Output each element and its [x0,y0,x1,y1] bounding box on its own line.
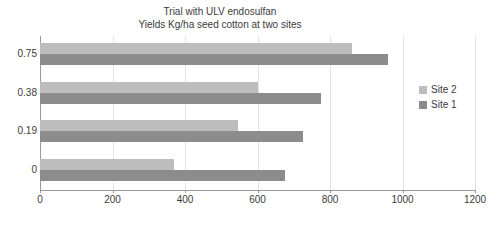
bar [40,159,174,170]
plot-area [40,36,475,190]
bar-group [40,75,475,114]
bar-group [40,152,475,191]
bar [40,82,258,93]
bar [40,54,388,65]
legend-item: Site 1 [419,98,457,111]
y-axis-tick-labels: 0.750.380.190 [0,36,37,190]
bar [40,43,352,54]
x-axis-tick-mark [330,190,331,193]
chart-title-block: Trial with ULV endosulfan Yields Kg/ha s… [0,5,440,31]
chart-title: Trial with ULV endosulfan [0,5,440,18]
x-axis-tick-mark [113,190,114,193]
legend-label: Site 2 [431,84,457,95]
x-axis-tick-label: 0 [20,194,60,205]
y-axis-tick-label: 0 [1,164,37,175]
x-axis-tick-label: 800 [310,194,350,205]
bar-group [40,113,475,152]
legend-swatch-icon [419,101,427,109]
bar [40,170,285,181]
chart-legend: Site 2Site 1 [419,83,457,113]
x-axis-tick-mark [475,190,476,193]
bar-group [40,36,475,75]
legend-swatch-icon [419,86,427,94]
x-axis-tick-mark [403,190,404,193]
x-axis-tick-mark [185,190,186,193]
chart-subtitle: Yields Kg/ha seed cotton at two sites [0,18,440,31]
legend-item: Site 2 [419,83,457,96]
bar-chart: Trial with ULV endosulfan Yields Kg/ha s… [0,0,503,225]
x-axis-tick-label: 1000 [383,194,423,205]
x-axis-tick-label: 1200 [455,194,495,205]
bar [40,131,303,142]
x-axis-tick-label: 400 [165,194,205,205]
gridline [475,36,476,190]
legend-label: Site 1 [431,99,457,110]
y-axis-tick-label: 0.75 [1,48,37,59]
bar [40,120,238,131]
y-axis-tick-label: 0.19 [1,125,37,136]
x-axis-tick-mark [258,190,259,193]
x-axis-tick-label: 200 [93,194,133,205]
y-axis-tick-label: 0.38 [1,87,37,98]
x-axis-tick-mark [40,190,41,193]
bar [40,93,321,104]
x-axis-tick-label: 600 [238,194,278,205]
